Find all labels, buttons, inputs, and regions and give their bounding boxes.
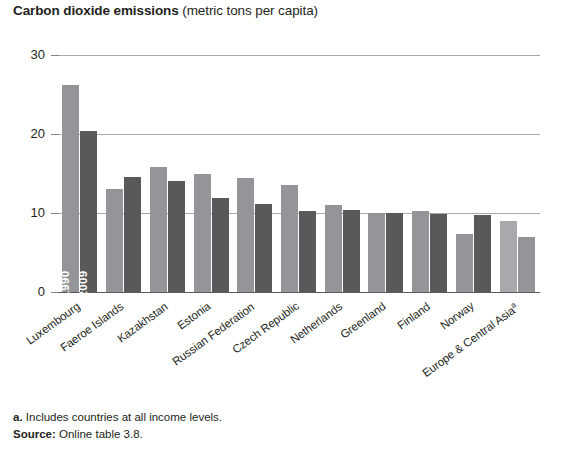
footnote-source: Source: Online table 3.8.	[13, 426, 222, 443]
bar-1990-greenland	[368, 213, 385, 292]
bar-2009-czech-republic	[299, 211, 316, 292]
axis-baseline	[59, 292, 540, 293]
y-axis-label-0: 0	[1, 284, 45, 299]
bar-2009-russian-federation	[255, 204, 272, 292]
y-tick-20	[51, 134, 59, 135]
footnote-source-label: Source:	[13, 428, 56, 440]
x-axis-label-greenland: Greenland	[338, 300, 388, 341]
bar-2009-finland	[430, 214, 447, 292]
bar-1990-netherlands	[325, 205, 342, 292]
footnote-source-text: Online table 3.8.	[56, 428, 143, 440]
bar-2009-europe-central-asia	[518, 237, 535, 292]
footnote-a-marker: a.	[13, 411, 23, 423]
bar-1990-norway	[456, 234, 473, 292]
bar-1990-estonia	[194, 174, 211, 293]
bar-2009-norway	[474, 215, 491, 292]
bar-1990-luxembourg: 1990	[62, 85, 79, 292]
y-tick-0	[51, 292, 59, 293]
y-axis-label-20: 20	[1, 126, 45, 141]
bar-2009-luxembourg: 2009	[80, 131, 97, 292]
bar-2009-faeroe-islands	[124, 177, 141, 292]
bar-1990-finland	[412, 211, 429, 292]
bar-1990-kazakhstan	[150, 167, 167, 292]
x-axis-label-finland: Finland	[395, 300, 432, 331]
gridline-20	[59, 134, 540, 135]
footnotes: a. Includes countries at all income leve…	[13, 409, 222, 442]
bar-chart: 0102030 19902009 LuxembourgFaeroe Island…	[0, 0, 568, 400]
x-axis-label-estonia: Estonia	[175, 300, 213, 332]
x-axis-label-russian-federation: Russian Federation	[170, 300, 256, 367]
bar-2009-estonia	[212, 198, 229, 292]
series-label-1990: 1990	[59, 271, 71, 298]
bar-1990-europe-central-asia	[500, 221, 517, 292]
bar-2009-netherlands	[343, 210, 360, 292]
footnote-a-text: Includes countries at all income levels.	[23, 411, 222, 423]
y-tick-10	[51, 213, 59, 214]
x-axis-label-norway: Norway	[438, 300, 476, 332]
gridline-30	[59, 55, 540, 56]
bar-1990-russian-federation	[237, 178, 254, 292]
bar-1990-czech-republic	[281, 185, 298, 292]
bar-2009-greenland	[386, 213, 403, 292]
bar-2009-kazakhstan	[168, 181, 185, 292]
y-axis-label-30: 30	[1, 47, 45, 62]
y-tick-30	[51, 55, 59, 56]
footnote-a: a. Includes countries at all income leve…	[13, 409, 222, 426]
y-axis-label-10: 10	[1, 205, 45, 220]
bar-1990-faeroe-islands	[106, 189, 123, 292]
